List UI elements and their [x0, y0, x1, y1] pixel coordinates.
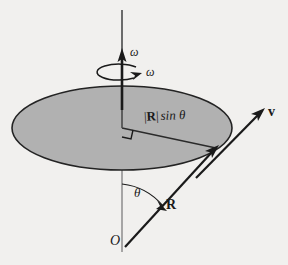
rotation-direction-arc	[97, 64, 136, 80]
omega-axis-label: ω	[130, 46, 138, 58]
theta-angle-label: θ	[134, 186, 140, 199]
sin-function-label: sin	[158, 107, 176, 123]
omega-rotation-label: ω	[146, 66, 154, 78]
diagram-canvas	[0, 0, 288, 265]
physics-diagram-rotating-disk: ω ω |R|sin θ θ R v O	[0, 0, 288, 265]
radius-projection-label: |R|sin θ	[144, 108, 186, 123]
origin-label: O	[110, 234, 120, 248]
position-vector-label: R	[166, 198, 176, 212]
theta-angle-arc	[122, 184, 163, 206]
radius-projection-theta: θ	[179, 107, 186, 122]
velocity-vector-label: v	[268, 105, 275, 119]
